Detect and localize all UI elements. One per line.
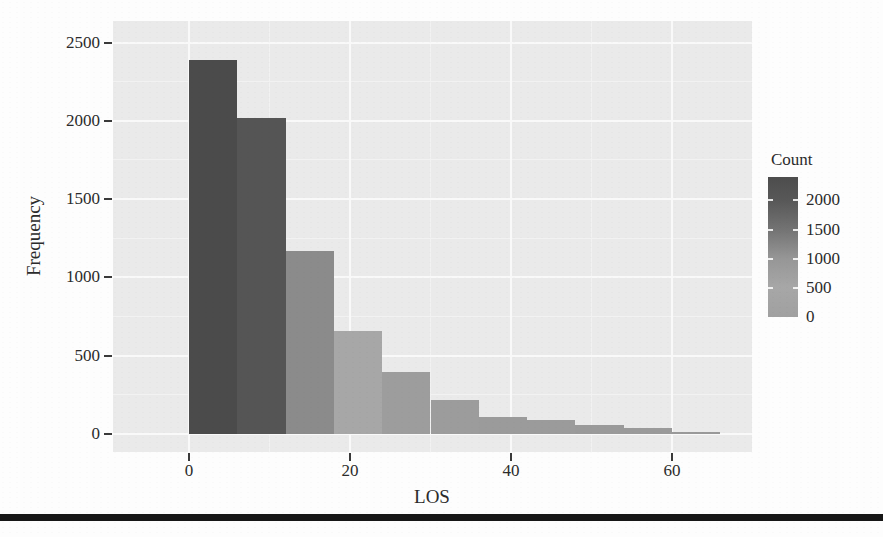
scanned-figure-page: 050010001500200025000204060 Frequency LO… — [0, 0, 883, 537]
y-axis-tick-mark — [104, 120, 112, 122]
x-axis-tick-mark — [510, 453, 512, 461]
legend-tick-label: 500 — [806, 279, 832, 297]
y-axis-tick-mark — [104, 198, 112, 200]
legend-tick-dash-left — [768, 199, 773, 201]
gridline-major-vertical — [510, 21, 512, 452]
legend-tick-dash-right — [793, 258, 798, 260]
x-axis-tick-mark — [188, 453, 190, 461]
y-axis-tick-mark — [104, 276, 112, 278]
legend-title: Count — [771, 150, 813, 170]
x-axis-tick-label: 0 — [167, 461, 211, 481]
histogram-bar — [286, 251, 334, 434]
y-axis-tick-label: 2000 — [28, 111, 100, 131]
legend-tick-dash-left — [768, 287, 773, 289]
x-axis-title: LOS — [414, 486, 450, 508]
histogram-bar — [431, 400, 479, 434]
gridline-major-horizontal — [113, 42, 752, 44]
legend-tick-dash-left — [768, 258, 773, 260]
x-axis-tick-mark — [671, 453, 673, 461]
histogram-bar — [334, 331, 382, 434]
histogram-bar — [479, 417, 527, 434]
x-axis-tick-mark — [349, 453, 351, 461]
legend-tick-dash-left — [768, 229, 773, 231]
gridline-minor-vertical — [591, 21, 592, 452]
legend-tick-label: 1000 — [806, 250, 840, 268]
gridline-major-vertical — [671, 21, 673, 452]
x-axis-tick-label: 60 — [650, 461, 694, 481]
histogram-bar — [575, 425, 623, 434]
y-axis-tick-mark — [104, 433, 112, 435]
legend-tick-label: 0 — [806, 308, 815, 326]
histogram-bar — [624, 428, 672, 434]
plot-panel — [113, 21, 752, 452]
histogram-bar — [189, 60, 237, 434]
y-axis-tick-label: 2500 — [28, 33, 100, 53]
y-axis-title: Frequency — [23, 196, 45, 276]
legend-tick-label: 2000 — [806, 191, 840, 209]
histogram-bar — [237, 118, 285, 434]
page-divider-rule — [0, 514, 883, 521]
x-axis-tick-label: 20 — [328, 461, 372, 481]
legend-gradient-bar — [768, 177, 798, 317]
histogram-bar — [382, 372, 430, 434]
y-axis-tick-mark — [104, 355, 112, 357]
y-axis-tick-label: 0 — [28, 424, 100, 444]
legend-tick-dash-right — [793, 287, 798, 289]
legend: Count 2000150010005000 — [760, 150, 883, 350]
legend-tick-dash-right — [793, 199, 798, 201]
y-axis-tick-label: 500 — [28, 346, 100, 366]
x-axis-tick-label: 40 — [489, 461, 533, 481]
y-axis-tick-mark — [104, 42, 112, 44]
histogram-bar — [672, 432, 720, 434]
legend-tick-label: 1500 — [806, 221, 840, 239]
histogram-bar — [527, 420, 575, 434]
legend-tick-dash-right — [793, 229, 798, 231]
